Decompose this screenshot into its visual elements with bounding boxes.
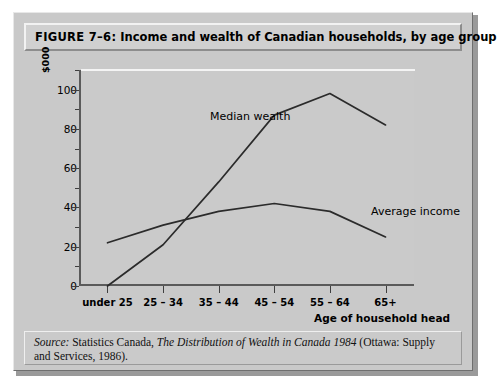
x-tick-mark	[274, 286, 275, 293]
figure-panel: FIGURE 7–6: Income and wealth of Canadia…	[13, 12, 473, 371]
x-tick-mark	[219, 286, 220, 293]
chart-series-lines	[79, 70, 414, 286]
x-tick-label: 65+	[374, 297, 396, 308]
y-tick-mark	[72, 168, 79, 169]
chart-plot-area: $000 020406080100 under 2525 – 3435 – 44…	[14, 13, 474, 372]
figure-source-text: Source: Statistics Canada, The Distribut…	[34, 336, 452, 363]
series-line	[107, 204, 385, 243]
y-tick-mark	[72, 129, 79, 130]
y-tick-mark	[72, 207, 79, 208]
x-tick-label: 55 – 64	[310, 297, 350, 308]
x-tick-label: 25 – 34	[143, 297, 183, 308]
source-prefix: Source:	[34, 336, 69, 348]
source-part-one: Statistics Canada,	[69, 336, 157, 348]
x-tick-mark	[163, 286, 164, 293]
x-axis-title: Age of household head	[314, 312, 450, 324]
x-tick-label: 45 – 54	[254, 297, 294, 308]
y-tick-mark	[72, 247, 79, 248]
source-title-italic: The Distribution of Wealth in Canada 198…	[157, 336, 357, 348]
x-tick-mark	[386, 286, 387, 293]
series-label-median-wealth: Median wealth	[210, 110, 290, 123]
x-tick-label: 35 – 44	[199, 297, 239, 308]
x-tick-mark	[330, 286, 331, 293]
x-axis-ticks: under 2525 – 3435 – 4445 – 5455 – 6465+	[79, 293, 414, 309]
y-tick-mark	[72, 286, 79, 287]
figure-source-box: Source: Statistics Canada, The Distribut…	[24, 331, 462, 365]
x-tick-label: under 25	[82, 297, 133, 308]
y-axis-ticks: 020406080100	[49, 13, 77, 372]
y-tick-mark	[72, 90, 79, 91]
x-tick-mark	[107, 286, 108, 293]
series-label-average-income: Average income	[371, 205, 460, 218]
